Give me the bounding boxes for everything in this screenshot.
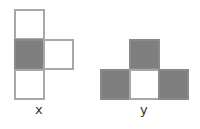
shape-y-cell-bottom-right [158,69,189,100]
shape-x-cell-top [14,9,45,40]
shape-y-cell-bottom-middle [129,69,160,100]
shape-y-cell-bottom-left [100,69,131,100]
shape-x-cell-middle [14,39,45,70]
shape-y-cell-top [129,39,160,70]
shape-x-cell-bottom [14,69,45,100]
shape-x-label: x [35,103,43,116]
shape-x-cell-right [43,39,74,70]
shape-y-label: y [140,103,148,116]
